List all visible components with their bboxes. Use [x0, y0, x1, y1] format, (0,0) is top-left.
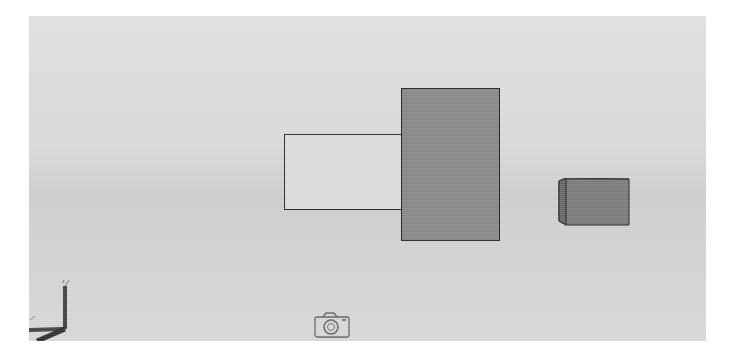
axis-triad-icon	[29, 274, 74, 341]
3d-viewport[interactable]: z	[29, 16, 706, 341]
light-panel-object[interactable]	[284, 134, 404, 210]
axis-triad	[29, 274, 74, 341]
box-icon	[558, 178, 630, 226]
camera-icon	[313, 311, 351, 339]
small-box-object[interactable]	[558, 178, 630, 226]
camera-button[interactable]	[313, 311, 351, 339]
dark-panel-object[interactable]	[401, 88, 500, 241]
axis-z-label: z	[62, 278, 65, 284]
